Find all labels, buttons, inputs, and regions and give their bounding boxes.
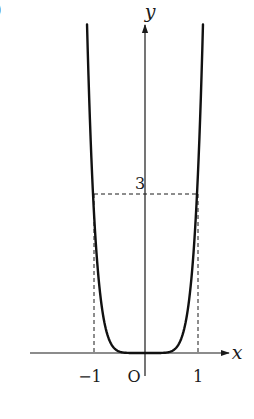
partial-figure-label: ) <box>0 0 2 19</box>
y-axis-label: y <box>144 0 156 22</box>
x-tick-label-neg1: −1 <box>78 367 102 386</box>
x-tick-label-pos1: 1 <box>193 367 203 386</box>
x-axis-label: x <box>232 341 243 363</box>
origin-label: O <box>127 367 140 386</box>
function-graph: ) y x 3 −1 O 1 <box>0 0 254 419</box>
reference-lines <box>94 194 198 353</box>
y-tick-label-3: 3 <box>135 174 145 193</box>
